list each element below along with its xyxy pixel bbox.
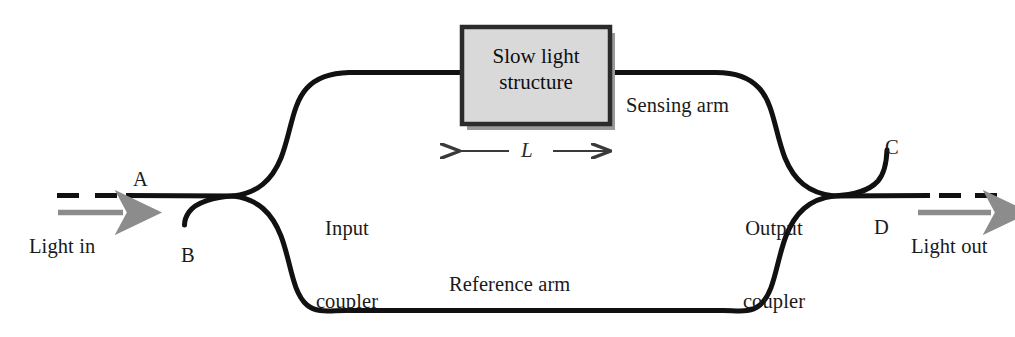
light-in-label: Light in [29, 234, 95, 258]
sensing-arm-label: Sensing arm [626, 93, 729, 117]
port-label-d: D [874, 215, 889, 239]
waveguide-port-d [834, 196, 930, 197]
slow-light-box-line1: Slow light [462, 44, 610, 70]
input-coupler-label: Input coupler [288, 168, 406, 337]
interferometer-diagram: Slow light structure L Input coupler Out… [0, 0, 1015, 337]
input-coupler-label-line2: coupler [288, 289, 406, 313]
light-out-label: Light out [911, 234, 988, 258]
slow-light-box-line2: structure [462, 70, 610, 96]
output-coupler-label-line1: Output [715, 216, 833, 240]
reference-arm-label: Reference arm [449, 272, 570, 296]
waveguide-port-b [185, 196, 234, 225]
port-label-a: A [133, 167, 148, 191]
length-symbol-label: L [521, 138, 533, 163]
waveguide-port-c [834, 150, 887, 196]
input-coupler-label-line1: Input [288, 216, 406, 240]
port-label-b: B [181, 243, 195, 267]
output-coupler-label: Output coupler [715, 168, 833, 337]
slow-light-box-label: Slow light structure [462, 44, 610, 95]
port-label-c: C [885, 135, 899, 159]
output-coupler-label-line2: coupler [715, 289, 833, 313]
